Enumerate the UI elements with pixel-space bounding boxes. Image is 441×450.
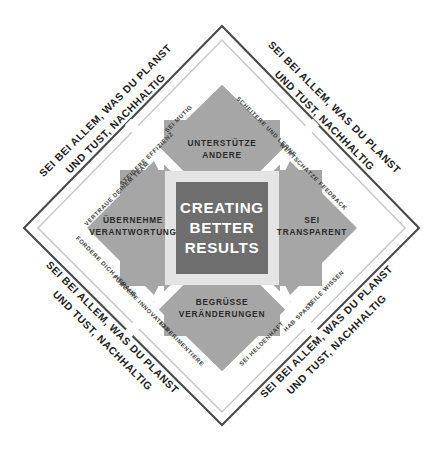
quadrant-left-line2: VERANTWORTUNG <box>89 227 177 237</box>
core-label-line3: RESULTS <box>185 239 260 256</box>
quadrant-top-line1: UNTERSTÜTZE <box>187 138 256 148</box>
motto-top-right-line2: UND TUST, NACHHALTIG <box>272 69 376 173</box>
diagram-canvas: CREATING BETTER RESULTS UNTERSTÜTZE ANDE… <box>0 0 441 450</box>
quadrant-bottom-line2: VERÄNDERUNGEN <box>179 309 265 319</box>
quadrant-left-line1: ÜBERNEHME <box>103 215 163 225</box>
quadrant-top-line2: ANDERE <box>202 150 242 160</box>
core-label-line2: BETTER <box>190 219 255 236</box>
framework-diagram: CREATING BETTER RESULTS UNTERSTÜTZE ANDE… <box>0 0 441 450</box>
quadrant-right-line1: SEI <box>304 215 320 225</box>
quadrant-right-line2: TRANSPARENT <box>277 227 347 237</box>
motto-top-left-line2: UND TUST, NACHHALTIG <box>64 72 168 176</box>
core-label-line1: CREATING <box>180 199 264 216</box>
motto-bottom-right-line2: UND TUST, NACHHALTIG <box>285 293 389 397</box>
quadrant-bottom-line1: BEGRÜSSE <box>196 297 249 307</box>
